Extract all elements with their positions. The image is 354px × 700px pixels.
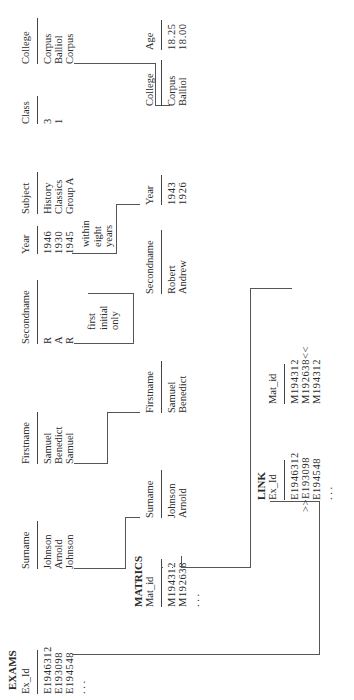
- exams-col-subject: Subject History Classics Group A: [20, 172, 75, 214]
- column-header: College: [20, 18, 34, 64]
- cell: R: [43, 280, 54, 344]
- cell: >>E193098: [301, 440, 312, 512]
- cell: Johnson: [65, 521, 76, 569]
- cell: M192638<<: [301, 334, 312, 404]
- cell: Samuel: [65, 412, 76, 464]
- cell: Arnold: [178, 470, 189, 518]
- header-rule: [161, 361, 162, 413]
- matrics-col-year: Year 1943 1926: [144, 175, 189, 205]
- connector-line: [319, 501, 320, 655]
- column-header: Firstname: [144, 361, 158, 413]
- cell: 18.00: [178, 20, 189, 50]
- column-header: Surname: [144, 470, 158, 518]
- column-header: Ex_Id: [267, 440, 281, 500]
- cell: Benedict: [54, 412, 65, 464]
- year-match-note: within eight years: [80, 220, 115, 247]
- cell: 1: [54, 96, 65, 124]
- column-header: Class: [20, 96, 34, 124]
- cell: Andrew: [178, 230, 189, 294]
- connector-line: [116, 204, 117, 254]
- header-rule: [37, 521, 38, 569]
- link-col-mat-id: Mat_id M194312 M192638<< M194312: [267, 334, 322, 404]
- header-rule: [37, 96, 38, 124]
- note-line: eight: [92, 220, 104, 247]
- connector-line: [72, 654, 320, 655]
- cell: Balliol: [54, 18, 65, 64]
- header-rule: [37, 226, 38, 254]
- exams-col-college: College Corpus Balliol Corpus: [20, 18, 75, 64]
- header-rule: [161, 60, 162, 106]
- connector-line: [116, 204, 140, 205]
- header-rule: [161, 20, 162, 50]
- column-header: Subject: [20, 172, 34, 214]
- column-header: Firstname: [20, 412, 34, 464]
- exams-col-year: Year 1946 1930 1945: [20, 226, 75, 254]
- connector-line: [107, 412, 108, 464]
- cell: M194312: [312, 334, 323, 404]
- connector-line: [125, 517, 126, 569]
- cell: A: [54, 280, 65, 344]
- cell: Corpus: [65, 18, 76, 64]
- connector-line: [74, 568, 126, 569]
- cell: 1930: [54, 226, 65, 254]
- note-line: only: [109, 306, 121, 331]
- connector-line: [162, 567, 163, 568]
- connector-line: [270, 501, 320, 502]
- cell: Benedict: [178, 361, 189, 413]
- cell: Arnold: [54, 521, 65, 569]
- cell: E193098: [54, 650, 65, 694]
- column-header: Surname: [20, 521, 34, 569]
- connector-line: [181, 556, 182, 568]
- header-rule: [37, 280, 38, 344]
- connector-line: [88, 293, 89, 294]
- column-header: Age: [144, 20, 158, 50]
- column-header: Year: [20, 226, 34, 254]
- column-header: Secondname: [20, 280, 34, 344]
- header-rule: [37, 412, 38, 464]
- column-header: Year: [144, 175, 158, 205]
- column-header: Secondname: [144, 230, 158, 294]
- connector-line: [250, 288, 292, 289]
- matrics-col-firstname: Firstname Samuel Benedict: [144, 361, 189, 413]
- ellipsis: . . .: [324, 440, 335, 500]
- connector-line: [250, 288, 251, 568]
- matrics-col-secondname: Secondname Robert Andrew: [144, 230, 189, 294]
- column-header: Ex_Id: [20, 650, 34, 694]
- connector-line: [74, 463, 108, 464]
- note-line: initial: [98, 306, 110, 331]
- header-rule: [161, 230, 162, 294]
- cell: R: [65, 280, 76, 344]
- exams-col-ex-id: Ex_Id E1946312 E193098 E194548 . . .: [20, 650, 88, 694]
- column-header: Mat_id: [267, 334, 281, 404]
- exams-table-title: EXAMS: [6, 650, 18, 690]
- header-rule: [37, 650, 38, 694]
- note-line: years: [103, 220, 115, 247]
- connector-line: [181, 567, 251, 568]
- cell: E194548: [312, 440, 323, 500]
- exams-col-class: Class 3 1: [20, 96, 65, 124]
- exams-col-secondname: Secondname R A R: [20, 280, 75, 344]
- record-linkage-diagram: EXAMS Ex_Id E1946312 E193098 E194548 . .…: [0, 0, 354, 700]
- link-table-title: LINK: [255, 472, 267, 500]
- connector-line: [133, 293, 134, 344]
- cell: Balliol: [178, 60, 189, 106]
- header-rule: [161, 175, 162, 205]
- secondname-match-note: first initial only: [86, 306, 121, 331]
- connector-line: [161, 559, 162, 560]
- connector-line: [172, 567, 173, 568]
- matrics-table-title: MATRICS: [132, 556, 144, 607]
- cell: Classics: [54, 172, 65, 214]
- cell: Group A: [65, 172, 76, 214]
- header-rule: [284, 460, 285, 500]
- header-rule: [284, 364, 285, 404]
- exams-col-firstname: Firstname Samuel Benedict Samuel: [20, 412, 75, 464]
- header-rule: [37, 172, 38, 214]
- connector-line: [74, 253, 117, 254]
- link-col-ex-id: Ex_Id E1946312 >>E193098 E194548 . . .: [267, 440, 335, 500]
- header-rule: [161, 470, 162, 518]
- header-rule: [37, 18, 38, 64]
- note-line: within: [80, 220, 92, 247]
- cell: E194548: [65, 650, 76, 694]
- connector-line: [72, 253, 74, 254]
- matrics-col-age: Age 18.25 18.00: [144, 20, 189, 50]
